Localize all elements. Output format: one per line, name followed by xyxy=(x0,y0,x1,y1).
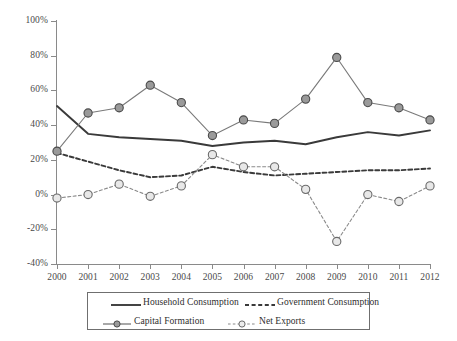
data-point-marker xyxy=(333,53,341,61)
series-line xyxy=(57,106,430,146)
legend-label: Government Consumption xyxy=(277,298,379,308)
chart-figure: 100%80%60%40%20%0%-20%-40% 2000200120022… xyxy=(0,0,457,341)
series-net-exports xyxy=(53,151,434,246)
data-point-marker xyxy=(426,116,434,124)
solid-line-filled-marker-swatch xyxy=(100,316,134,328)
data-point-marker xyxy=(270,119,278,127)
data-point-marker xyxy=(177,182,185,190)
data-point-marker xyxy=(364,190,372,198)
data-point-marker xyxy=(426,182,434,190)
data-point-marker xyxy=(302,185,310,193)
data-point-marker xyxy=(84,109,92,117)
data-point-marker xyxy=(53,194,61,202)
data-point-marker xyxy=(239,163,247,171)
legend-item-government-consumption[interactable]: Government Consumption xyxy=(243,293,379,312)
data-point-marker xyxy=(146,192,154,200)
chart-legend: Household Consumption Government Consump… xyxy=(87,292,370,330)
data-point-marker xyxy=(146,81,154,89)
legend-label: Net Exports xyxy=(259,317,305,327)
data-point-marker xyxy=(302,95,310,103)
dashed-line-open-marker-swatch xyxy=(225,316,259,328)
data-point-marker xyxy=(364,98,372,106)
series-household-consumption xyxy=(57,106,430,146)
legend-row: Household Consumption Government Consump… xyxy=(88,293,369,312)
data-point-marker xyxy=(208,151,216,159)
dashed-line-swatch xyxy=(243,297,277,309)
data-point-marker xyxy=(239,116,247,124)
data-point-marker xyxy=(53,147,61,155)
legend-item-capital-formation[interactable]: Capital Formation xyxy=(100,312,204,331)
legend-row: Capital Formation Net Exports xyxy=(88,312,369,331)
data-point-marker xyxy=(208,131,216,139)
solid-line-swatch xyxy=(109,297,143,309)
data-point-marker xyxy=(84,190,92,198)
chart-plot xyxy=(0,0,457,341)
data-point-marker xyxy=(395,104,403,112)
data-point-marker xyxy=(333,237,341,245)
legend-item-net-exports[interactable]: Net Exports xyxy=(225,312,305,331)
series-capital-formation xyxy=(53,53,434,155)
legend-item-household-consumption[interactable]: Household Consumption xyxy=(109,293,239,312)
data-point-marker xyxy=(177,98,185,106)
data-point-marker xyxy=(115,180,123,188)
data-point-marker xyxy=(115,104,123,112)
data-point-marker xyxy=(270,163,278,171)
legend-label: Household Consumption xyxy=(143,298,239,308)
legend-label: Capital Formation xyxy=(134,317,204,327)
data-point-marker xyxy=(395,197,403,205)
